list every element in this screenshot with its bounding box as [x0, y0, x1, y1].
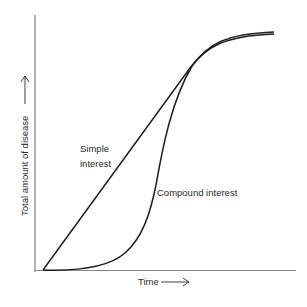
disease-progress-chart: Simple interest Compound interest Time T… [0, 0, 307, 307]
x-axis-label: Time [138, 276, 159, 287]
y-axis-arrow-icon [21, 76, 29, 104]
x-axis-arrow-icon [161, 278, 189, 286]
simple-interest-label-line1: Simple [80, 143, 109, 154]
compound-interest-curve [43, 32, 274, 270]
y-axis-label: Total amount of disease [19, 116, 30, 216]
simple-interest-curve [43, 34, 274, 270]
compound-interest-label: Compound interest [157, 187, 238, 198]
simple-interest-label-line2: interest [80, 158, 112, 169]
